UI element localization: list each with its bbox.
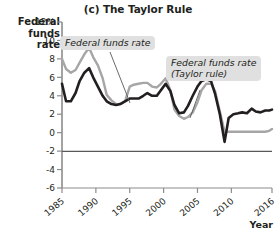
annotation-taylor-line2: (Taylor rule) <box>171 68 256 79</box>
x-tick-label: 2010 <box>212 196 236 219</box>
x-tick-label: 2016 <box>252 196 276 219</box>
y-tick-label: -2 <box>46 146 55 156</box>
y-tick-label: 2 <box>49 109 55 119</box>
x-axis-tick-labels: 1985199019952000200520102016 <box>42 196 276 219</box>
x-tick-label: 1995 <box>110 196 134 218</box>
y-tick-label: 0 <box>49 128 55 138</box>
annotation-taylor-rule: Federal funds rate (Taylor rule) <box>166 56 261 81</box>
annotation-federal-funds-rate: Federal funds rate <box>60 36 155 50</box>
y-tick-label: 6 <box>49 73 55 83</box>
y-tick-label: -4 <box>46 165 55 175</box>
annotation-ffr-text: Federal funds rate <box>65 37 150 48</box>
x-tick-label: 2000 <box>144 196 168 219</box>
leader-line-ffr <box>110 52 130 103</box>
y-tick-label: 4 <box>49 91 55 101</box>
y-tick-label: 10 <box>44 36 56 46</box>
x-tick-label: 2005 <box>178 196 202 218</box>
chart-plot-area: 12%1086420-2-4-6 19851990199520002005201… <box>0 0 276 232</box>
y-axis-tick-labels: 12%1086420-2-4-6 <box>35 17 55 193</box>
y-tick-label: 12% <box>35 17 55 27</box>
annotation-taylor-line1: Federal funds rate <box>171 57 256 68</box>
x-tick-label: 1985 <box>42 196 66 218</box>
x-tick-label: 1990 <box>76 196 100 219</box>
chart-figure: (c) The Taylor Rule Federal funds rate 1… <box>0 0 276 232</box>
x-axis-title: Year <box>249 219 273 230</box>
x-axis-ticks <box>62 188 272 193</box>
y-tick-label: 8 <box>49 54 55 64</box>
y-tick-label: -6 <box>46 183 55 193</box>
